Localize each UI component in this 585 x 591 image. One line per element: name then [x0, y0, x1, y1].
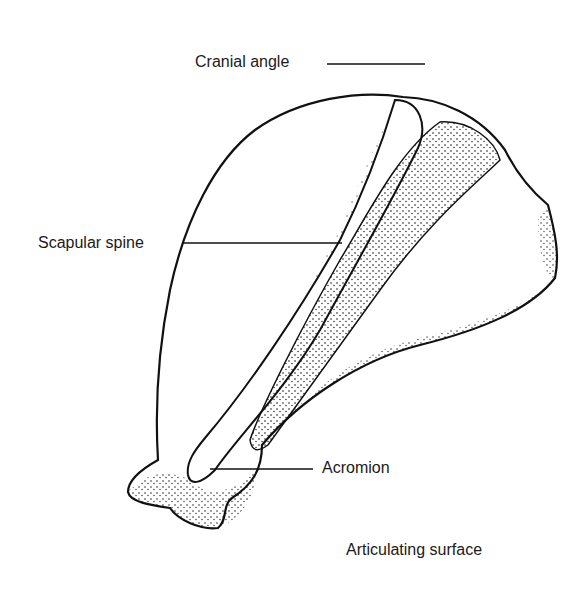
label-cranial-angle: Cranial angle: [195, 54, 289, 70]
scapula-diagram: Cranial angle Scapular spine Acromion Ar…: [0, 0, 585, 591]
label-acromion: Acromion: [322, 460, 390, 476]
scapula-drawing: [0, 0, 585, 591]
spine-groove-outline: [188, 100, 422, 482]
label-scapular-spine: Scapular spine: [38, 235, 144, 251]
label-articulating-surface: Articulating surface: [346, 542, 482, 558]
caudal-border-shading: [538, 205, 557, 278]
